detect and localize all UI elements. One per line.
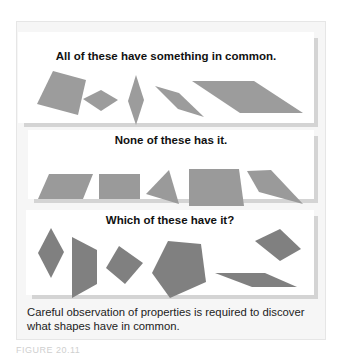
figure-label: FIGURE 20.11: [16, 345, 80, 355]
panel-which-have-it: Which of these have it?: [26, 210, 314, 295]
figure-caption: Careful observation of properties is req…: [27, 305, 317, 333]
panel-shadow: [314, 216, 318, 299]
shapes-set-3: [1, 1, 311, 101]
caption-line-1: Careful observation of properties is req…: [27, 305, 317, 319]
shape-rectangle: [99, 174, 140, 199]
figure-box: All of these have something in common. N…: [16, 21, 326, 340]
shape-rhombus-small: [255, 229, 301, 261]
shape-square-tilted: [106, 246, 143, 284]
panel-none-have-it: None of these has it.: [28, 130, 314, 199]
panel-title: Which of these have it?: [26, 214, 314, 226]
shape-parallelogram: [38, 174, 93, 199]
shape-quadrilateral-tall: [72, 237, 97, 298]
caption-line-2: what shapes have in common.: [27, 319, 317, 333]
shape-flat-parallelogram: [215, 273, 297, 287]
shape-trapezoid: [189, 169, 244, 206]
shape-rhombus-vertical: [38, 228, 64, 278]
panel-shadow: [314, 136, 318, 203]
shape-pentagon: [152, 241, 206, 298]
panel-title: None of these has it.: [28, 134, 314, 146]
